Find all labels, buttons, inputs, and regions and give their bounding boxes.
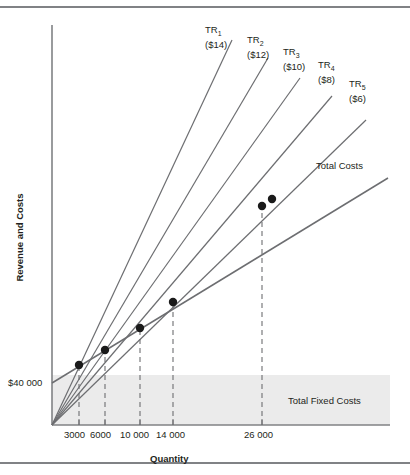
tr2-label: TR2 ($12)	[247, 34, 269, 61]
tr1-sub: 1	[218, 30, 222, 37]
x-axis-title: Quantity	[150, 453, 189, 464]
x-tick-6000: 6000	[90, 429, 111, 440]
tr4-name: TR	[318, 59, 331, 70]
tr1-label: TR1 ($14)	[205, 24, 227, 51]
breakeven-point-26000-alt	[268, 195, 276, 203]
breakeven-point-14000	[169, 298, 177, 306]
bottom-divider	[0, 462, 410, 464]
x-tick-3000: 3000	[64, 429, 85, 440]
tr3-line	[52, 78, 300, 425]
y-axis-title: Revenue and Costs	[14, 183, 25, 293]
breakeven-point-6000	[101, 346, 109, 354]
tr4-label: TR4 ($8)	[318, 59, 335, 86]
tr4-price: ($8)	[318, 74, 335, 85]
tr2-name: TR	[247, 34, 260, 45]
tr3-name: TR	[283, 46, 296, 57]
tr2-price: ($12)	[247, 49, 269, 60]
tr1-name: TR	[205, 24, 218, 35]
break-even-chart: Revenue and Costs Quantity $40 000 Total…	[0, 10, 410, 460]
fixed-cost-value: $40 000	[8, 377, 42, 388]
tr5-price: ($6)	[349, 93, 366, 104]
tr1-price: ($14)	[205, 39, 227, 50]
total-revenue-lines	[52, 40, 366, 425]
breakeven-point-3000	[75, 361, 83, 369]
tr3-sub: 3	[296, 52, 300, 59]
tr2-sub: 2	[260, 40, 264, 47]
total-fixed-costs-label: Total Fixed Costs	[288, 395, 361, 406]
tr5-label: TR5 ($6)	[349, 78, 366, 105]
x-tick-14000: 14 000	[156, 429, 185, 440]
x-tick-26000: 26 000	[244, 429, 273, 440]
breakeven-point-10000	[136, 324, 144, 332]
tr4-sub: 4	[331, 65, 335, 72]
x-tick-10000: 10 000	[120, 429, 149, 440]
tr5-name: TR	[349, 78, 362, 89]
tr3-price: ($10)	[283, 61, 305, 72]
tr2-line	[52, 58, 268, 425]
tr5-sub: 5	[362, 84, 366, 91]
breakeven-point-26000	[258, 202, 266, 210]
breakeven-markers	[75, 195, 276, 369]
tr3-label: TR3 ($10)	[283, 46, 305, 73]
top-divider	[0, 6, 410, 8]
total-costs-label: Total Costs	[316, 160, 363, 171]
